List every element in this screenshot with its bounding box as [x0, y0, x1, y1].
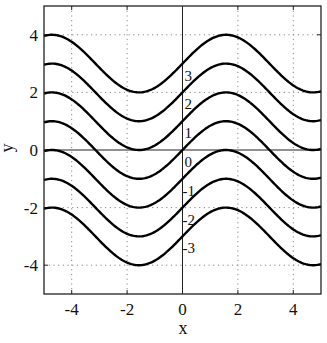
curve-label: -2 — [183, 212, 196, 228]
sine-family-chart: 3210-1-2-3 -4-2024 -4-2024 x y — [0, 0, 327, 343]
curve-label: -1 — [183, 183, 196, 199]
y-tick-label: 0 — [30, 141, 39, 160]
y-tick-label: -4 — [24, 256, 39, 275]
y-tick-labels: -4-2024 — [24, 26, 39, 275]
y-axis-label: y — [0, 144, 17, 153]
x-tick-label: 0 — [178, 300, 187, 319]
y-tick-label: 2 — [30, 83, 39, 102]
curve-label: -3 — [183, 240, 196, 256]
x-tick-label: 4 — [289, 300, 298, 319]
x-tick-label: -2 — [120, 300, 134, 319]
y-tick-label: 4 — [30, 26, 39, 45]
x-tick-label: 2 — [234, 300, 243, 319]
x-tick-labels: -4-2024 — [65, 300, 298, 319]
curve-label: 2 — [185, 96, 193, 112]
x-axis-label: x — [179, 318, 188, 338]
y-tick-label: -2 — [24, 199, 38, 218]
x-tick-label: -4 — [65, 300, 80, 319]
curve-label: 1 — [185, 125, 193, 141]
curve-labels: 3210-1-2-3 — [183, 68, 196, 257]
curve-label: 0 — [185, 154, 193, 170]
curve-label: 3 — [185, 68, 193, 84]
